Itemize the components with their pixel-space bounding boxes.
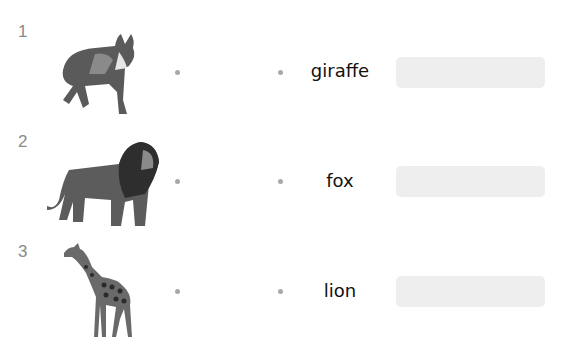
answer-input[interactable] xyxy=(396,276,545,307)
lion-image xyxy=(45,140,161,230)
giraffe-image xyxy=(62,243,138,339)
right-match-dot[interactable] xyxy=(278,179,283,184)
right-match-dot[interactable] xyxy=(278,289,283,294)
word-label: lion xyxy=(295,280,385,301)
match-row-3: 3 lion xyxy=(0,0,568,110)
answer-input[interactable] xyxy=(396,166,545,197)
left-match-dot[interactable] xyxy=(175,289,180,294)
word-label: fox xyxy=(295,170,385,191)
row-number: 3 xyxy=(18,242,27,262)
left-match-dot[interactable] xyxy=(175,179,180,184)
row-number: 2 xyxy=(18,132,27,152)
